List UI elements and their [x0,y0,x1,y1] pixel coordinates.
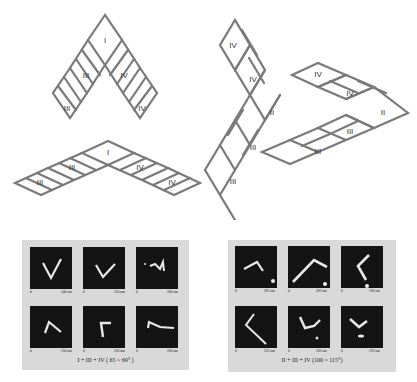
scale-start: 0 [30,290,32,294]
scale-end: 250 nm [61,349,72,353]
scale-end: 240 nm [61,290,72,294]
scale-end: 239 nm [369,349,380,353]
label-III: III [315,147,322,156]
scale-end: 263 nm [264,289,275,293]
scale-start: 0 [30,349,32,353]
scale-end: 333 nm [264,349,275,353]
scale-start: 0 [235,349,237,353]
dna-origami-schematics: I III III IV IV I III III IV IV IV IV II… [0,0,417,220]
scale-start: 0 [341,289,343,293]
label-IV: IV [138,104,146,113]
afm-image [341,306,383,348]
afm-image [341,246,383,288]
afm-panel-right: 0 263 nm 0 269 nm 0 190 nm 0 333 nm 0 23… [228,240,396,372]
afm-image [30,247,72,289]
label-III: III [69,163,76,172]
scale-start: 0 [341,349,343,353]
label-III: III [83,71,90,80]
scale-start: 0 [83,349,85,353]
label-IV: IV [120,71,128,80]
label-I: I [107,148,109,157]
afm-image [136,306,178,348]
afm-image [83,247,125,289]
scale-end: 250 nm [114,290,125,294]
schematic-top-right-vertical [205,20,280,220]
afm-image [30,306,72,348]
label-III: III [37,178,44,187]
afm-panel-left: 0 240 nm 0 250 nm 0 180 nm 0 250 nm 0 25… [22,240,189,370]
scale-start: 0 [136,349,138,353]
scale-end: 180 nm [167,290,178,294]
label-I: I [104,36,106,45]
scale-start: 0 [288,289,290,293]
afm-image [235,306,277,348]
afm-image [136,247,178,289]
label-III: III [64,104,71,113]
scale-end: 250 nm [114,349,125,353]
label-III: III [250,143,257,152]
label-IV: IV [314,70,322,79]
afm-image [288,306,330,348]
label-IV: IV [249,75,257,84]
schematic-top-left [53,15,157,118]
scale-end: 160 nm [167,349,178,353]
afm-image [83,306,125,348]
label-III: III [230,177,237,186]
label-II: II [381,108,385,117]
label-III: III [347,127,354,136]
scale-start: 0 [83,290,85,294]
afm-image [288,246,330,288]
scale-start: 0 [235,289,237,293]
label-IV: IV [136,163,144,172]
scale-start: 0 [288,349,290,353]
scale-end: 269 nm [316,289,327,293]
label-IV: IV [168,178,176,187]
schematic-right-horizontal [262,63,408,164]
label-IV: IV [346,89,354,98]
label-II: II [270,108,274,117]
afm-image [235,246,277,288]
panel-caption: II + III + IV (100 ~ 115°) [228,357,396,363]
scale-start: 0 [136,290,138,294]
panel-caption: I + III + IV ( 65 ~ 69° ) [22,357,189,363]
scale-end: 236 nm [316,349,327,353]
scale-end: 190 nm [369,289,380,293]
label-IV: IV [229,41,237,50]
